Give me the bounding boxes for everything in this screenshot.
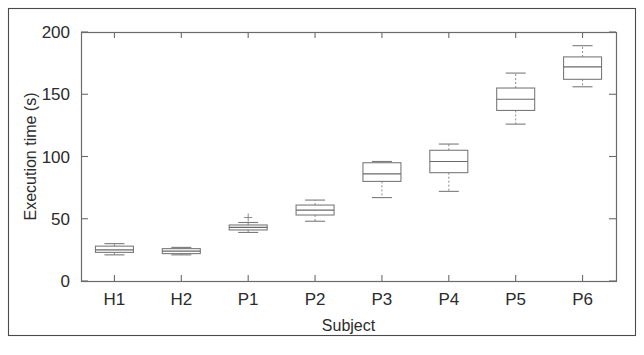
box-p4 — [430, 144, 468, 191]
x-tick-label-p5: P5 — [505, 290, 526, 309]
box-iqr — [95, 246, 133, 252]
y-tick-label: 200 — [42, 23, 70, 42]
box-h1 — [95, 244, 133, 255]
box-p5 — [497, 73, 535, 124]
box-p6 — [564, 46, 602, 87]
x-axis-ticks — [114, 32, 582, 281]
y-axis-ticks — [81, 32, 616, 281]
x-axis-title: Subject — [322, 317, 376, 334]
x-tick-label-h2: H2 — [170, 290, 192, 309]
box-p2 — [296, 200, 334, 221]
box-iqr — [363, 163, 401, 182]
y-tick-label: 150 — [42, 85, 70, 104]
x-tick-label-p4: P4 — [438, 290, 459, 309]
boxplot-chart: 050100150200 H1H2P1P2P3P4P5P6 Execution … — [0, 0, 644, 355]
x-axis-tick-labels: H1H2P1P2P3P4P5P6 — [104, 290, 593, 309]
y-axis-title: Execution time (s) — [22, 92, 39, 220]
box-p3 — [363, 161, 401, 197]
y-tick-label: 0 — [61, 272, 70, 291]
x-tick-label-p1: P1 — [238, 290, 259, 309]
x-tick-label-p6: P6 — [572, 290, 593, 309]
x-tick-label-h1: H1 — [104, 290, 126, 309]
figure-container: 050100150200 H1H2P1P2P3P4P5P6 Execution … — [0, 0, 644, 355]
figure-border — [9, 9, 636, 336]
box-p1 — [229, 214, 267, 233]
y-tick-label: 50 — [51, 210, 70, 229]
box-h2 — [162, 247, 200, 254]
y-axis-tick-labels: 050100150200 — [42, 23, 70, 291]
x-tick-label-p2: P2 — [305, 290, 326, 309]
x-tick-label-p3: P3 — [372, 290, 393, 309]
plot-axes-frame — [82, 33, 617, 282]
box-plot-series — [95, 46, 601, 255]
y-tick-label: 100 — [42, 148, 70, 167]
box-iqr — [564, 57, 602, 79]
